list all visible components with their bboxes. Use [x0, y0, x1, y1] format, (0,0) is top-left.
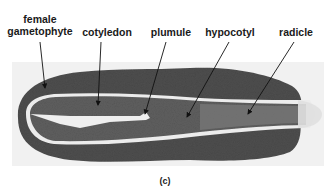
figure-caption: (c) — [150, 176, 180, 186]
micrograph — [0, 0, 333, 193]
